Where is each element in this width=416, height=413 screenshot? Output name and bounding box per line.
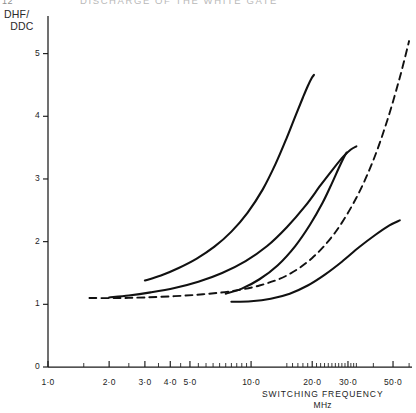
x-tick-label: 4·0 xyxy=(164,377,177,387)
data-curve-curve-4 xyxy=(231,220,399,301)
x-tick-label: 2·0 xyxy=(103,377,116,387)
x-tick-label: 3·0 xyxy=(138,377,151,387)
y-tick-label: 4 xyxy=(14,110,40,120)
y-tick-label: 5 xyxy=(14,48,40,58)
x-tick-marks xyxy=(48,361,409,367)
y-tick-label: 2 xyxy=(14,236,40,246)
data-curve-curve-1 xyxy=(145,75,314,281)
x-tick-label: 1·0 xyxy=(42,377,55,387)
x-tick-label: 20·0 xyxy=(303,377,321,387)
plot-canvas xyxy=(0,0,416,413)
x-tick-label: 50·0 xyxy=(384,377,402,387)
x-tick-label: 30·0 xyxy=(339,377,357,387)
data-curve-curve-2 xyxy=(109,146,356,297)
y-tick-label: 0 xyxy=(14,361,40,371)
x-tick-label: 10·0 xyxy=(242,377,260,387)
y-tick-label: 3 xyxy=(14,173,40,183)
data-curves xyxy=(89,41,409,302)
y-tick-marks xyxy=(43,54,48,367)
y-tick-label: 1 xyxy=(14,298,40,308)
figure-chart-dhf-ddc-vs-switching-frequency: 12 DISCHARGE OF THE WHITE GATE DHF/ DDC … xyxy=(0,0,416,413)
x-tick-label: 5·0 xyxy=(183,377,196,387)
axis-lines xyxy=(48,16,412,367)
